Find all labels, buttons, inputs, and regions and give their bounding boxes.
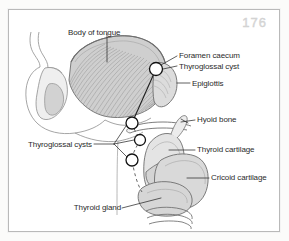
label-thyroid-cartilage: Thyroid cartilage xyxy=(197,145,254,154)
sublingual-region xyxy=(36,67,67,119)
anatomy-illustration xyxy=(9,10,279,231)
label-body-of-tongue: Body of tongue xyxy=(68,28,120,37)
label-cricoid-cartilage: Cricoid cartilage xyxy=(211,173,267,182)
label-thyroid-gland: Thyroid gland xyxy=(41,203,121,212)
label-thyroglossal-cysts: Thyroglossal cysts xyxy=(14,140,92,149)
label-hyoid-bone: Hyoid bone xyxy=(197,115,236,124)
label-foramen-caecum: Foramen caecum xyxy=(179,51,240,60)
label-thyroglossal-cyst: Thyroglossal cyst xyxy=(179,62,239,71)
figure-frame: 176 xyxy=(8,9,280,232)
label-epiglottis: Epiglottis xyxy=(192,79,223,88)
figure-root: 176 xyxy=(0,0,289,241)
